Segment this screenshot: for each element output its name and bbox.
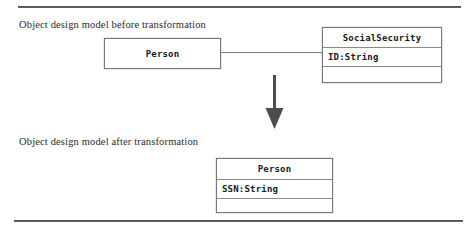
down-arrow-icon [258,74,292,130]
caption-after-transformation: Object design model after transformation [19,136,198,147]
class-name-compartment: Person [105,39,220,68]
uml-transformation-figure: Object design model before transformatio… [0,0,471,236]
uml-class-person-before: Person [104,38,221,69]
bottom-horizontal-rule [14,220,463,222]
class-name-compartment: SocialSecurity [323,28,441,47]
caption-before-transformation: Object design model before transformatio… [19,19,206,30]
class-operation-compartment [323,66,441,82]
top-horizontal-rule [18,6,461,8]
class-attribute-compartment: ID:String [323,47,441,66]
class-attribute-compartment: SSN:String [217,179,332,198]
uml-class-person-after: Person SSN:String [216,158,333,213]
uml-class-socialsecurity: SocialSecurity ID:String [322,27,442,83]
association-line-person-socialsecurity [221,52,322,53]
class-name-compartment: Person [217,159,332,179]
class-operation-compartment [217,198,332,213]
